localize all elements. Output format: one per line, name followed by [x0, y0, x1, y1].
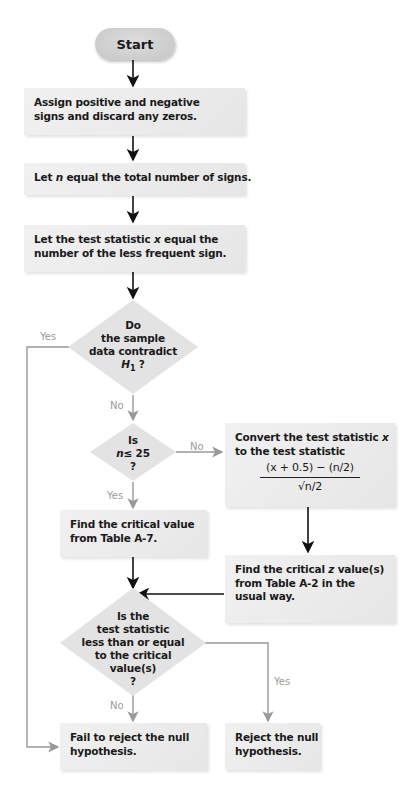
- assign-line1: Assign positive and negative: [34, 96, 235, 110]
- process-assign-signs: Assign positive and negative signs and d…: [24, 88, 245, 135]
- convert-pre: Convert the test statistic: [235, 431, 382, 443]
- process-convert: Convert the test statistic x to the test…: [225, 423, 395, 507]
- terminal-reject: Reject the null hypothesis.: [225, 723, 320, 770]
- compare-line6: ?: [78, 675, 188, 688]
- n25-rest: ≤ 25: [124, 447, 150, 459]
- process-let-n: Let n equal the total number of signs.: [24, 163, 245, 195]
- fail-line1: Fail to reject the null: [70, 731, 197, 745]
- n25-line1: Is: [103, 434, 163, 447]
- label-yes-n25: Yes: [107, 490, 123, 501]
- reject-line2: hypothesis.: [235, 745, 310, 759]
- crit-a7-line1: Find the critical value: [70, 518, 197, 532]
- contradict-line1: Do: [83, 319, 183, 332]
- crit-a2-post: value(s): [334, 563, 384, 575]
- assign-line2: signs and discard any zeros.: [34, 110, 235, 124]
- terminal-fail-to-reject: Fail to reject the null hypothesis.: [60, 723, 207, 770]
- formula-denominator: √n/2: [298, 478, 322, 494]
- compare-line5: value(s): [78, 662, 188, 675]
- formula-numerator: (x + 0.5) − (n/2): [260, 461, 360, 478]
- formula-fraction: (x + 0.5) − (n/2) √n/2: [235, 461, 385, 493]
- let-x-pre: Let the test statistic: [34, 233, 154, 245]
- let-n-post: equal the total number of signs.: [63, 171, 251, 183]
- var-h: H: [121, 358, 130, 370]
- var-x: x: [154, 233, 161, 245]
- process-crit-a2: Find the critical z value(s) from Table …: [225, 555, 395, 623]
- decision-n25-text: Is n≤ 25 ?: [103, 434, 163, 473]
- crit-a7-line2: from Table A-7.: [70, 532, 197, 546]
- var-n: n: [116, 447, 123, 459]
- label-yes-contradict: Yes: [40, 331, 56, 342]
- n25-line2: n≤ 25: [103, 447, 163, 460]
- label-no-contradict: No: [110, 400, 124, 411]
- label-yes-compare: Yes: [274, 676, 290, 687]
- start-label: Start: [117, 37, 154, 52]
- crit-a2-line3: usual way.: [235, 590, 385, 604]
- var-x: x: [382, 431, 389, 443]
- question-mark: ?: [135, 358, 144, 370]
- process-crit-a7: Find the critical value from Table A-7.: [60, 510, 207, 557]
- compare-line2: test statistic: [78, 623, 188, 636]
- decision-compare-text: Is the test statistic less than or equal…: [78, 610, 188, 688]
- decision-contradict-text: Do the sample data contradict H1 ?: [83, 319, 183, 375]
- process-let-x: Let the test statistic x equal the numbe…: [24, 225, 245, 272]
- compare-line4: to the critical: [78, 649, 188, 662]
- let-x-line2: number of the less frequent sign.: [34, 247, 235, 261]
- fail-line2: hypothesis.: [70, 745, 197, 759]
- label-no-n25: No: [190, 441, 204, 452]
- crit-a2-line2: from Table A-2 in the: [235, 577, 385, 591]
- crit-a2-pre: Find the critical: [235, 563, 328, 575]
- compare-line1: Is the: [78, 610, 188, 623]
- label-no-compare: No: [110, 700, 124, 711]
- n25-line3: ?: [103, 460, 163, 473]
- contradict-line3: data contradict: [83, 345, 183, 358]
- reject-line1: Reject the null: [235, 731, 310, 745]
- contradict-line4: H1 ?: [83, 358, 183, 375]
- var-n: n: [56, 171, 63, 183]
- let-n-pre: Let: [34, 171, 56, 183]
- let-x-post: equal the: [161, 233, 219, 245]
- convert-line2: to the test statistic: [235, 445, 385, 459]
- compare-line3: less than or equal: [78, 636, 188, 649]
- contradict-line2: the sample: [83, 332, 183, 345]
- start-terminal: Start: [95, 28, 175, 60]
- arrow-yes-to-reject: [205, 643, 268, 721]
